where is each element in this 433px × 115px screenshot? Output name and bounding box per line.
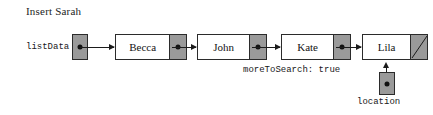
- list-node: Lila: [362, 34, 428, 60]
- arrow-kate-to-lila: [336, 44, 361, 51]
- node-data-cell: John: [198, 35, 249, 59]
- node-link-cell: [410, 35, 427, 59]
- arrow-becca-to-john: [172, 44, 196, 51]
- pointer-dot-icon: [385, 81, 390, 86]
- null-pointer-slash-icon: [411, 35, 427, 59]
- arrow-john-to-kate: [252, 44, 280, 51]
- listdata-label: listData: [26, 42, 69, 52]
- diagram-title: Insert Sarah: [26, 5, 81, 17]
- location-pointer-box: [379, 72, 395, 95]
- arrow-listdata-to-becca: [80, 44, 114, 51]
- location-label: location: [357, 97, 400, 107]
- node-data-cell: Becca: [116, 35, 169, 59]
- node-data-cell: Lila: [363, 35, 410, 59]
- node-data-cell: Kate: [282, 35, 333, 59]
- more-to-search-status: moreToSearch: true: [243, 65, 340, 75]
- linked-list-diagram: Insert Sarah listData Becca John Kate: [0, 0, 433, 115]
